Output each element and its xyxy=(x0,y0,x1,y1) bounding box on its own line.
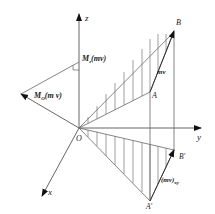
mv-xy-label: (mv)xy xyxy=(161,176,180,185)
point-A-label: A xyxy=(151,91,157,100)
moment-z-label: Mz(mv) xyxy=(81,54,107,64)
x-axis xyxy=(42,128,79,196)
triangle-OA'B' xyxy=(79,128,174,201)
origin-label: O xyxy=(76,134,82,143)
projection-line-Mo xyxy=(21,62,79,94)
svg-text:MO(m v): MO(m v) xyxy=(33,91,62,101)
x-axis-label: x xyxy=(47,187,52,197)
right-angle-mark xyxy=(73,65,79,70)
mv-vector xyxy=(150,31,174,92)
moment-diagram: z y x O B A B' A' mv (mv)xy Mz(mv) MO(m … xyxy=(0,0,215,214)
triangle-OAB xyxy=(79,32,174,128)
point-B-prime-label: B' xyxy=(179,152,186,161)
z-axis-label: z xyxy=(84,13,89,23)
mv-label: mv xyxy=(157,68,166,76)
diagram-canvas: z y x O B A B' A' mv (mv)xy Mz(mv) MO(m … xyxy=(0,0,215,214)
svg-text:(mv)xy: (mv)xy xyxy=(161,176,180,185)
y-axis-label: y xyxy=(196,132,201,142)
svg-text:Mz(mv): Mz(mv) xyxy=(81,54,107,64)
point-B-label: B xyxy=(176,18,181,27)
moment-O-label: MO(m v) xyxy=(33,91,62,101)
point-A-prime-label: A' xyxy=(145,202,153,211)
